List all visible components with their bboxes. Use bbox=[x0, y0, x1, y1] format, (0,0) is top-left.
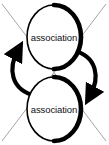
association-cycle-diagram: association association bbox=[0, 0, 109, 145]
node-bottom-label: association bbox=[31, 104, 77, 115]
diagram-canvas: association association bbox=[0, 0, 109, 145]
node-top-label: association bbox=[31, 32, 77, 43]
